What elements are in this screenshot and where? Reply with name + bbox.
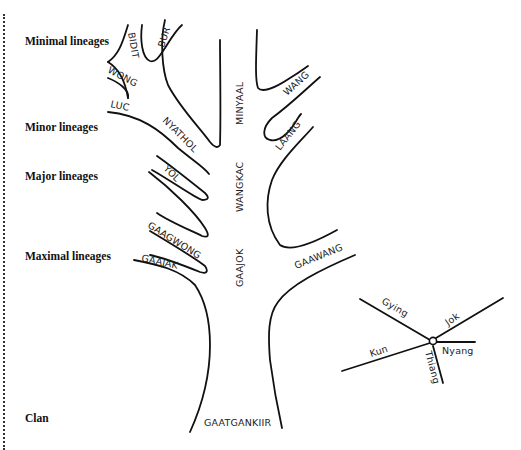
compass-label-nyang: Nyang [442, 345, 474, 356]
compass-diagram: Gying Jok Kun Nyang Thiang [0, 0, 521, 450]
compass-center-circle [429, 337, 436, 344]
compass-label-gying: Gying [380, 295, 410, 319]
